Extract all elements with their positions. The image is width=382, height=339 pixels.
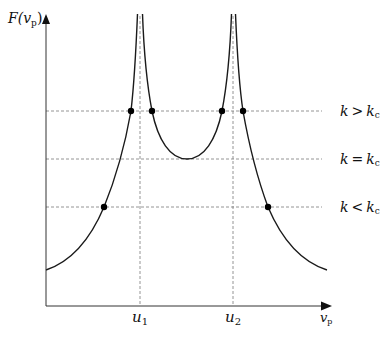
- label-k-less-than-kc: k<kc: [340, 199, 380, 216]
- curve-F: [46, 14, 327, 270]
- label-k-equals-kc: k=kc: [340, 151, 380, 168]
- level-labels: k>kc k=kc k<kc: [340, 103, 380, 216]
- x-tick-u2: u2: [225, 308, 241, 327]
- y-axis-label: F(vp): [7, 10, 42, 28]
- curve-middle-branch: [143, 14, 232, 159]
- intersection-dot: [265, 204, 271, 210]
- label-k-greater-than-kc: k>kc: [340, 103, 380, 120]
- curve-right-branch: [236, 14, 328, 270]
- dispersion-diagram: F(vp) k>kc k=kc k<kc u1 u2 vp: [0, 0, 382, 339]
- y-axis-arrow-icon: [42, 14, 50, 24]
- intersection-dot: [219, 108, 225, 114]
- axes: [42, 14, 332, 311]
- asymptote-lines: [140, 16, 233, 306]
- x-axis-label: vp: [320, 310, 332, 326]
- x-tick-u1: u1: [132, 308, 148, 327]
- curve-left-branch: [46, 14, 138, 270]
- intersection-dot: [101, 204, 107, 210]
- intersection-dot: [149, 108, 155, 114]
- intersection-dot: [240, 108, 246, 114]
- intersection-dot: [128, 108, 134, 114]
